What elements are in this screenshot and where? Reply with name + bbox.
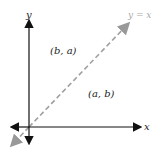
point-a-b-label: (a, b) [88,89,115,99]
y-axis-label: y [26,10,32,20]
coordinate-diagram [0,0,160,152]
x-axis-label: x [144,122,150,132]
line-label: y = x [128,11,151,20]
point-b-a-label: (b, a) [50,46,77,56]
